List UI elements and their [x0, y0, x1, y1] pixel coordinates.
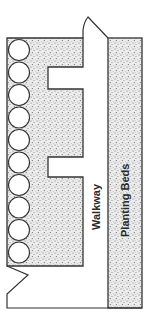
shrub-circle — [9, 242, 30, 263]
shrub-circle — [9, 130, 30, 151]
shrub-circle — [9, 62, 30, 83]
shrub-circle — [9, 175, 30, 196]
shrub-circle — [9, 197, 30, 218]
shrub-circle — [9, 152, 30, 173]
shrub-circle — [9, 220, 30, 241]
planting-beds-label: Planting Beds — [119, 164, 131, 237]
walkway-break-mark-top — [83, 17, 108, 38]
shrub-circle — [9, 85, 30, 106]
shrub-circle — [9, 40, 30, 61]
garden-plan-diagram: Walkway Planting Beds — [0, 0, 152, 323]
shrub-circle — [9, 107, 30, 128]
walkway-label: Walkway — [90, 183, 102, 230]
